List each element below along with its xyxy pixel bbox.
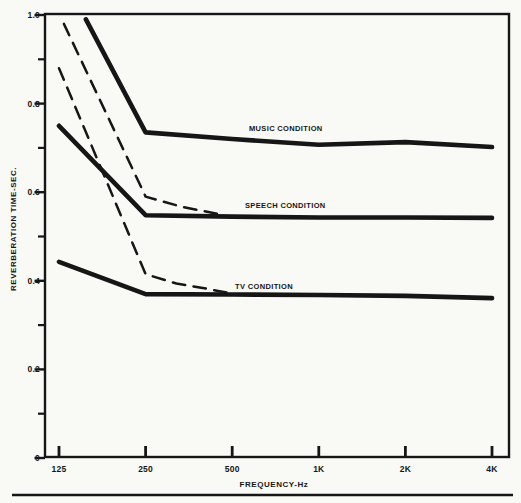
x-tick-label: 4K [486, 464, 498, 474]
plot-frame [45, 14, 509, 457]
x-tick-label: 1K [313, 464, 325, 474]
condition-label: MUSIC CONDITION [249, 124, 323, 133]
x-tick-label: 125 [52, 464, 67, 474]
y-axis-title: REVERBERATION TIME-SEC. [9, 167, 18, 291]
tv-condition-solid-line [59, 262, 492, 298]
condition-label: TV CONDITION [235, 282, 293, 291]
axis-tick-labels: 00.20.40.60.81.01252505001K2K4K [28, 10, 499, 474]
speech-condition-dashed-line [64, 24, 222, 215]
y-tick-label: 0.4 [28, 276, 40, 286]
x-tick-label: 500 [225, 464, 240, 474]
y-tick-label: 0 [35, 453, 40, 463]
y-tick-label: 0.2 [28, 364, 40, 374]
x-tick-label: 2K [400, 464, 412, 474]
reverberation-time-chart: 00.20.40.60.81.01252505001K2K4K MUSIC CO… [0, 0, 521, 503]
axis-ticks [35, 15, 493, 458]
tv-condition-dashed-line [59, 68, 232, 293]
y-tick-label: 0.8 [28, 99, 40, 109]
series-annotations: MUSIC CONDITIONSPEECH CONDITIONTV CONDIT… [235, 124, 326, 291]
x-tick-label: 250 [138, 464, 153, 474]
figure: 00.20.40.60.81.01252505001K2K4K MUSIC CO… [0, 0, 521, 503]
y-tick-label: 0.6 [28, 187, 40, 197]
x-axis-title: FREQUENCY-Hz [240, 480, 309, 489]
data-series [59, 19, 492, 298]
condition-label: SPEECH CONDITION [245, 201, 326, 210]
y-tick-label: 1.0 [28, 10, 40, 20]
